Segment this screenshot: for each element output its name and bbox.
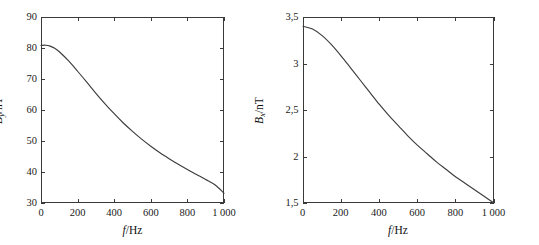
x-tick-label: 600 <box>409 208 425 219</box>
x-tick-top <box>151 17 152 21</box>
x-axis-title: f/Hz <box>123 225 143 237</box>
y-tick-label: 1,5 <box>271 198 299 209</box>
y-tick-left <box>303 64 307 65</box>
x-tick-bottom <box>417 199 418 203</box>
y-axis-symbol: B <box>0 116 3 123</box>
y-axis-symbol: B <box>253 116 265 123</box>
y-tick-left <box>41 110 45 111</box>
y-tick-right <box>220 172 224 173</box>
y-tick-left <box>41 48 45 49</box>
y-axis-unit: nT <box>253 97 265 110</box>
x-tick-bottom <box>78 199 79 203</box>
x-tick-bottom <box>151 199 152 203</box>
x-tick-top <box>114 17 115 21</box>
x-tick-label: 600 <box>143 208 159 219</box>
y-tick-right <box>220 17 224 18</box>
x-tick-label: 0 <box>38 208 43 219</box>
y-tick-left <box>303 203 307 204</box>
y-tick-left <box>41 141 45 142</box>
right-plot-area <box>303 17 494 203</box>
y-tick-right <box>490 157 494 158</box>
x-tick-bottom <box>494 199 495 203</box>
x-tick-bottom <box>114 199 115 203</box>
y-tick-left <box>41 79 45 80</box>
right-data-curve <box>303 26 494 203</box>
x-tick-label: 200 <box>333 208 349 219</box>
x-tick-label: 800 <box>447 208 463 219</box>
x-tick-bottom <box>187 199 188 203</box>
x-tick-label: 1 000 <box>212 208 236 219</box>
y-axis-title: Bx/nT <box>254 97 267 124</box>
x-tick-label: 1 000 <box>482 208 506 219</box>
x-tick-top <box>379 17 380 21</box>
x-tick-label: 200 <box>70 208 86 219</box>
y-tick-left <box>41 172 45 173</box>
x-axis-unit: Hz <box>394 224 407 236</box>
y-tick-label: 50 <box>9 136 37 147</box>
y-tick-label: 3 <box>271 58 299 69</box>
y-tick-right <box>220 110 224 111</box>
y-tick-label: 80 <box>9 43 37 54</box>
left-panel: 02004006008001 00030405060708090f/HzBy/n… <box>0 0 270 245</box>
x-axis-title: f/Hz <box>388 225 408 237</box>
y-tick-label: 70 <box>9 74 37 85</box>
x-tick-top <box>187 17 188 21</box>
y-tick-label: 3,5 <box>271 12 299 23</box>
y-tick-right <box>220 79 224 80</box>
y-tick-label: 60 <box>9 105 37 116</box>
y-tick-right <box>490 203 494 204</box>
x-axis-unit: Hz <box>129 224 142 236</box>
x-tick-bottom <box>455 199 456 203</box>
y-tick-label: 90 <box>9 12 37 23</box>
y-tick-left <box>303 110 307 111</box>
x-tick-label: 400 <box>371 208 387 219</box>
left-plot-area <box>41 17 224 203</box>
x-tick-bottom <box>379 199 380 203</box>
right-curve-svg <box>303 17 494 203</box>
figure-container: 02004006008001 00030405060708090f/HzBy/n… <box>0 0 539 245</box>
y-axis-subscript: x <box>258 113 267 117</box>
y-tick-label: 2,5 <box>271 105 299 116</box>
y-tick-left <box>303 157 307 158</box>
y-axis-title: By/nT <box>0 97 5 124</box>
y-tick-left <box>41 17 45 18</box>
x-tick-top <box>417 17 418 21</box>
x-tick-top <box>341 17 342 21</box>
x-tick-top <box>78 17 79 21</box>
y-axis-subscript: y <box>0 113 5 117</box>
y-tick-right <box>220 203 224 204</box>
x-tick-top <box>224 17 225 21</box>
y-tick-right <box>490 64 494 65</box>
x-tick-bottom <box>341 199 342 203</box>
x-tick-label: 0 <box>300 208 305 219</box>
y-tick-right <box>220 48 224 49</box>
x-tick-top <box>494 17 495 21</box>
right-panel: 02004006008001 0001,522,533,5f/HzBx/nT <box>270 0 539 245</box>
y-tick-right <box>490 17 494 18</box>
left-curve-svg <box>41 17 224 203</box>
left-data-curve <box>41 45 224 193</box>
y-tick-left <box>41 203 45 204</box>
y-tick-right <box>220 141 224 142</box>
y-tick-label: 2 <box>271 151 299 162</box>
x-tick-top <box>455 17 456 21</box>
x-tick-label: 800 <box>180 208 196 219</box>
y-tick-left <box>303 17 307 18</box>
y-tick-right <box>490 110 494 111</box>
y-axis-unit: nT <box>0 97 3 110</box>
y-tick-label: 40 <box>9 167 37 178</box>
x-tick-label: 400 <box>106 208 122 219</box>
y-tick-label: 30 <box>9 198 37 209</box>
x-tick-bottom <box>224 199 225 203</box>
